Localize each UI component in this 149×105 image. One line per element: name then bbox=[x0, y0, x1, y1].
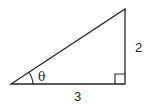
opposite-side-label: 2 bbox=[135, 40, 142, 55]
right-angle-marker bbox=[115, 74, 125, 84]
triangle-diagram: θ 2 3 bbox=[0, 0, 149, 105]
angle-arc bbox=[29, 73, 33, 85]
angle-label: θ bbox=[38, 70, 45, 84]
adjacent-side-label: 3 bbox=[74, 89, 81, 104]
right-triangle bbox=[11, 9, 125, 84]
